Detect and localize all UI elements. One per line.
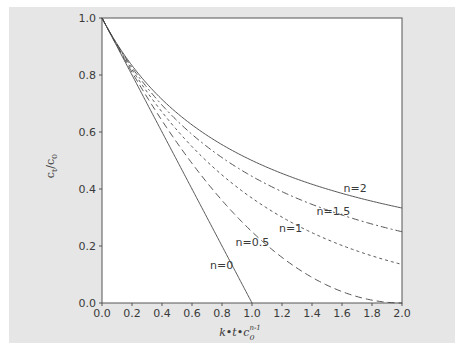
y-tick-label: 0.4	[79, 183, 97, 196]
x-tick-label: 1.4	[303, 307, 321, 320]
x-tick-label: 0.8	[213, 307, 231, 320]
curve-label: n=1.5	[317, 205, 351, 218]
y-tick-label: 1.0	[79, 12, 97, 25]
curve-label: n=0.5	[236, 236, 270, 249]
curve-label: n=1	[279, 222, 302, 235]
y-tick-label: 0.2	[79, 240, 97, 253]
y-axis-label: ct/c0	[44, 154, 59, 178]
curve-label: n=2	[344, 182, 367, 195]
y-tick-label: 0.6	[79, 126, 97, 139]
y-tick-label: 0.0	[79, 297, 97, 310]
x-tick-label: 0.2	[123, 307, 141, 320]
x-tick-label: 1.8	[363, 307, 381, 320]
x-tick-label: 0.4	[153, 307, 171, 320]
x-tick-label: 2.0	[393, 307, 411, 320]
x-tick-label: 0.6	[183, 307, 201, 320]
chart: 0.00.20.40.60.81.01.21.41.61.82.00.00.20…	[0, 0, 461, 347]
x-tick-label: 1.6	[333, 307, 351, 320]
x-axis-label: k•t•c0n-1	[219, 324, 261, 342]
x-tick-label: 1.2	[273, 307, 291, 320]
x-tick-label: 1.0	[243, 307, 261, 320]
y-tick-label: 0.8	[79, 69, 97, 82]
curve-label: n=0	[210, 259, 233, 272]
